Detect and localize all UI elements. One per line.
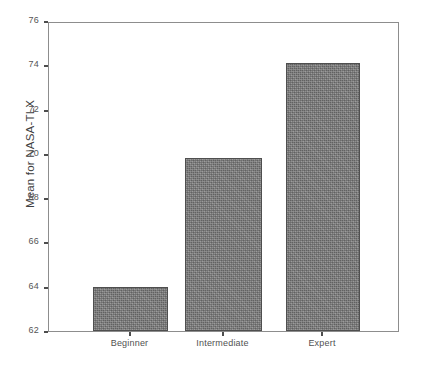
x-axis-tick-mark <box>321 332 323 336</box>
x-axis-tick-mark <box>129 332 131 336</box>
plot-area <box>48 22 399 332</box>
x-axis-tick-mark <box>222 332 224 336</box>
y-axis: 6264666870727476 <box>0 0 48 369</box>
y-axis-tick-label: 72 <box>29 104 39 114</box>
y-axis-tick-label: 62 <box>29 325 39 335</box>
y-axis-tick-label: 68 <box>29 192 39 202</box>
bar-expert <box>286 63 360 331</box>
y-axis-tick-label: 66 <box>29 236 39 246</box>
x-axis-tick-label-beginner: Beginner <box>111 338 149 349</box>
y-axis-tick-label: 70 <box>29 148 39 158</box>
x-axis-tick-label-expert: Expert <box>308 338 335 349</box>
bar-intermediate <box>185 158 262 331</box>
y-axis-tick-label: 74 <box>29 59 39 69</box>
bar-beginner <box>93 287 168 331</box>
y-axis-tick-label: 64 <box>29 281 39 291</box>
bar-chart: Mean for NASA-TLX 6264666870727476 Begin… <box>0 0 423 369</box>
x-axis-tick-label-intermediate: Intermediate <box>196 338 248 349</box>
y-axis-tick-label: 76 <box>29 15 39 25</box>
